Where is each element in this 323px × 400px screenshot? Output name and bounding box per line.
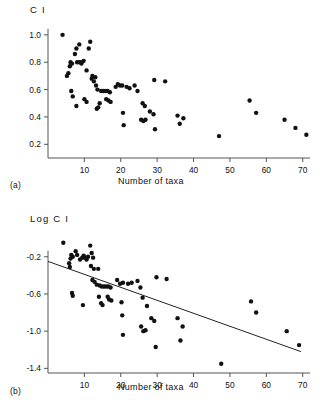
- panel-b: Log C I -0.2-0.6-1.0-1.410203040506070 N…: [0, 200, 323, 400]
- svg-text:30: 30: [153, 165, 163, 175]
- panel-a-plot: 0.20.40.60.81.010203040506070: [0, 0, 323, 200]
- panel-b-plot: -0.2-0.6-1.0-1.410203040506070: [0, 200, 323, 400]
- svg-text:50: 50: [225, 380, 235, 390]
- svg-text:0.2: 0.2: [29, 139, 41, 149]
- panel-a: C I 0.20.40.60.81.010203040506070 Number…: [0, 0, 323, 200]
- svg-text:10: 10: [80, 165, 90, 175]
- svg-text:0.8: 0.8: [29, 57, 41, 67]
- panel-a-label: (a): [10, 180, 21, 190]
- svg-text:10: 10: [80, 380, 90, 390]
- svg-text:1.0: 1.0: [29, 30, 41, 40]
- svg-text:-1.4: -1.4: [27, 363, 42, 373]
- svg-text:-0.6: -0.6: [27, 289, 42, 299]
- svg-text:50: 50: [225, 165, 235, 175]
- panel-b-x-axis-label: Number of taxa: [118, 382, 184, 392]
- svg-text:60: 60: [262, 380, 272, 390]
- svg-text:0.6: 0.6: [29, 85, 41, 95]
- panel-b-label: (b): [10, 386, 21, 396]
- svg-text:20: 20: [116, 165, 126, 175]
- svg-text:60: 60: [262, 165, 272, 175]
- svg-text:70: 70: [298, 165, 308, 175]
- svg-text:40: 40: [189, 380, 199, 390]
- svg-text:70: 70: [298, 380, 308, 390]
- svg-text:-1.0: -1.0: [27, 326, 42, 336]
- figure-container: C I 0.20.40.60.81.010203040506070 Number…: [0, 0, 323, 400]
- panel-a-x-axis-label: Number of taxa: [118, 176, 184, 186]
- svg-text:-0.2: -0.2: [27, 252, 42, 262]
- svg-text:0.4: 0.4: [29, 112, 41, 122]
- svg-text:40: 40: [189, 165, 199, 175]
